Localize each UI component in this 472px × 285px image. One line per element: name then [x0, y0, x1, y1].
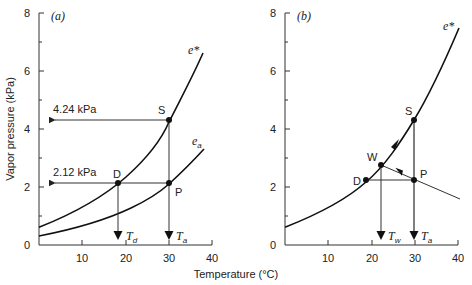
arrow-Tw [377, 231, 386, 240]
xtick-b-30: 30 [409, 252, 421, 264]
point-P-b [411, 177, 417, 183]
label-es-b: e* [443, 19, 454, 33]
ytick-b-8: 8 [270, 7, 276, 19]
panel-b: 0 2 4 6 8 10 20 30 40 (b) e* Tw Ta S W [270, 7, 464, 264]
xtick-b-40: 40 [452, 252, 464, 264]
figure-canvas: 0 2 4 6 8 10 20 30 40 (a) e* ea 4.24 kPa… [0, 0, 472, 285]
arrow-Ta-b [410, 231, 419, 240]
point-W [378, 162, 384, 168]
ytick-b-6: 6 [270, 65, 276, 77]
label-4-24: 4.24 kPa [53, 103, 97, 115]
label-Tw: Tw [388, 229, 402, 245]
label-ea-a: ea [192, 134, 202, 150]
label-S-a: S [158, 104, 165, 116]
panel-a: 0 2 4 6 8 10 20 30 40 (a) e* ea 4.24 kPa… [24, 7, 218, 264]
y-axis-title: Vapor pressure (kPa) [4, 77, 16, 181]
point-S-b [411, 117, 417, 123]
label-es-a: e* [188, 43, 199, 57]
label-Ta-a: Ta [176, 229, 188, 245]
label-Td: Td [126, 229, 138, 245]
point-D-b [363, 177, 369, 183]
panel-a-label: (a) [51, 9, 65, 23]
point-S-a [166, 117, 172, 123]
xtick-b-20: 20 [366, 252, 378, 264]
label-D-b: D [353, 175, 361, 187]
point-D-a [115, 180, 121, 186]
label-D-a: D [113, 168, 121, 180]
xtick-a-20: 20 [120, 252, 132, 264]
y-ticks-b [285, 42, 290, 216]
ytick-a-8: 8 [24, 7, 30, 19]
y-ticks-a [39, 42, 44, 216]
x-ticks-a [82, 240, 212, 245]
curve-es-a [39, 53, 203, 227]
ytick-b-2: 2 [270, 181, 276, 193]
ytick-a-4: 4 [24, 123, 30, 135]
curve-es-b [285, 28, 459, 227]
label-P-a: P [175, 186, 182, 198]
ytick-b-0: 0 [270, 239, 276, 251]
point-P-a [166, 180, 172, 186]
label-P-b: P [420, 168, 427, 180]
label-Ta-b: Ta [421, 229, 433, 245]
arrow-Ta-a [165, 231, 174, 240]
xtick-a-10: 10 [76, 252, 88, 264]
ytick-a-2: 2 [24, 181, 30, 193]
label-S-b: S [405, 105, 412, 117]
x-axis-title: Temperature (°C) [194, 268, 278, 280]
ytick-a-0: 0 [24, 239, 30, 251]
ytick-a-6: 6 [24, 65, 30, 77]
panel-b-label: (b) [297, 9, 311, 23]
label-2-12: 2.12 kPa [53, 166, 97, 178]
xtick-a-30: 30 [163, 252, 175, 264]
ytick-b-4: 4 [270, 123, 276, 135]
label-W: W [367, 151, 378, 163]
xtick-a-40: 40 [206, 252, 218, 264]
xtick-b-10: 10 [322, 252, 334, 264]
arrow-Td [114, 231, 123, 240]
